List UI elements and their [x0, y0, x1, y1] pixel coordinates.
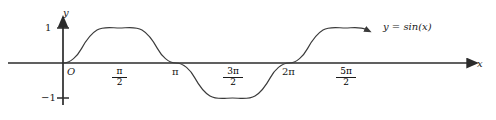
y-axis-label: y — [63, 8, 69, 18]
x-tick-label-pi: π — [172, 67, 179, 77]
x-axis-label: x — [477, 59, 483, 69]
curve-equation-label: y = sin(x) — [383, 22, 432, 32]
y-tick-label-minus-1: −1 — [41, 93, 56, 103]
equation-rhs: sin(x) — [403, 21, 431, 32]
sine-function-plot: y x O 1 −1 π 2 π 3π 2 2π 5π 2 y = sin(x) — [0, 0, 496, 120]
origin-label: O — [67, 67, 75, 77]
x-tick-label-pi-over-2: π 2 — [112, 67, 127, 87]
x-tick-label-3pi-over-2: 3π 2 — [223, 67, 243, 87]
plot-canvas — [0, 0, 496, 120]
fraction-numerator: 5π — [336, 67, 356, 77]
y-tick-label-1: 1 — [45, 23, 51, 33]
fraction-numerator: π — [112, 67, 127, 77]
fraction-numerator: 3π — [223, 67, 243, 77]
fraction-denominator: 2 — [112, 77, 127, 88]
fraction-denominator: 2 — [223, 77, 243, 88]
equation-operator: = — [389, 21, 404, 32]
x-tick-label-2pi: 2π — [282, 67, 295, 77]
fraction-denominator: 2 — [336, 77, 356, 88]
x-tick-label-5pi-over-2: 5π 2 — [336, 67, 356, 87]
